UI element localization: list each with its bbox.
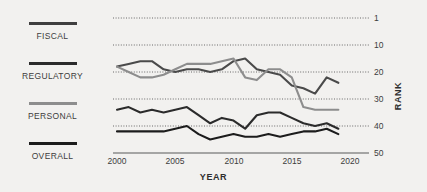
chart-plot-area: 1 10 20 30 40 50 2000 2005 2010 2015 202… (0, 0, 427, 192)
y-tick-label-10: 10 (374, 40, 383, 50)
x-axis-title: YEAR (0, 172, 427, 182)
series-line-overall[interactable] (117, 126, 338, 140)
y-tick-label-30: 30 (374, 94, 383, 104)
series-line-regulatory[interactable] (117, 107, 338, 129)
x-tick-label-2020: 2020 (341, 156, 360, 166)
chart-page: FISCAL REGULATORY PERSONAL OVERALL 1 10 … (0, 0, 427, 192)
x-tick-label-2015: 2015 (283, 156, 302, 166)
x-tick-label-2000: 2000 (108, 156, 127, 166)
y-tick-label-50: 50 (374, 148, 383, 158)
chart-canvas (0, 0, 427, 192)
y-tick-label-1: 1 (374, 13, 379, 23)
y-axis-title: RANK (393, 82, 403, 110)
x-tick-label-2010: 2010 (225, 156, 244, 166)
y-tick-label-20: 20 (374, 67, 383, 77)
y-tick-label-40: 40 (374, 121, 383, 131)
x-tick-label-2005: 2005 (166, 156, 185, 166)
series-line-fiscal[interactable] (117, 59, 338, 94)
